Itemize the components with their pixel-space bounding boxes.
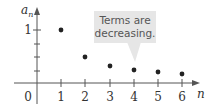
x-tick-label-1: 1 — [57, 90, 65, 104]
callout-line-1: Terms are — [98, 14, 150, 26]
callout-tail — [127, 42, 141, 62]
x-tick-label-6: 6 — [178, 90, 186, 104]
sequence-chart: 1 2 3 4 5 6 0 1 an n Terms are decreasin… — [0, 0, 215, 110]
x-tick-label-4: 4 — [130, 90, 138, 104]
point-n1 — [59, 28, 64, 33]
x-tick-label-5: 5 — [154, 90, 162, 104]
y-axis-label: an — [21, 3, 33, 19]
y-tick-label-1: 1 — [24, 23, 32, 37]
y-axis-arrow-icon — [34, 7, 40, 15]
point-n4 — [132, 68, 137, 73]
point-n3 — [108, 64, 113, 69]
x-axis-label: n — [197, 87, 205, 101]
point-n5 — [156, 70, 161, 75]
callout-annotation: Terms are decreasing. — [94, 11, 156, 62]
callout-line-2: decreasing. — [95, 27, 156, 39]
origin-label: 0 — [24, 90, 32, 104]
x-tick-label-2: 2 — [81, 90, 89, 104]
x-axis-arrow-icon — [192, 80, 200, 86]
point-n6 — [180, 72, 185, 77]
point-n2 — [83, 55, 88, 60]
x-tick-label-3: 3 — [106, 90, 114, 104]
